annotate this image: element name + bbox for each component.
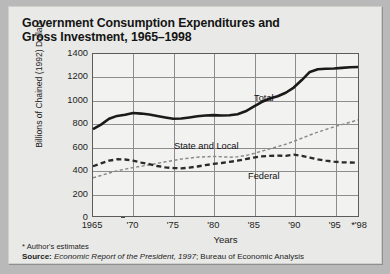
- x-tick-label: '75: [167, 220, 179, 230]
- y-tick-mark: [121, 217, 125, 218]
- chart-panel: Government Consumption Expenditures and …: [8, 6, 382, 264]
- x-tick-label: '80: [207, 220, 219, 230]
- chart-title-line-1: Government Consumption Expenditures and: [22, 16, 280, 30]
- series-lines: [93, 54, 358, 216]
- source-rest: ; Bureau of Economic Analysis: [196, 252, 304, 261]
- y-tick-label: 800: [46, 118, 88, 128]
- source-label: Source:: [22, 252, 52, 261]
- y-tick-label: 1200: [46, 71, 88, 81]
- chart-title: Government Consumption Expenditures and …: [22, 16, 362, 44]
- source-title: Economic Report of the President, 1997: [52, 252, 196, 261]
- x-tick-label: '70: [126, 220, 138, 230]
- y-tick-label: 200: [46, 189, 88, 199]
- y-tick-label: 1000: [46, 95, 88, 105]
- series-label-total: Total: [254, 93, 274, 103]
- x-tick-label: 1965: [82, 220, 103, 230]
- x-tick-label: '95: [329, 220, 341, 230]
- x-axis-title: Years: [92, 234, 359, 245]
- x-tick-label: '85: [248, 220, 260, 230]
- x-tick-label: '90: [288, 220, 300, 230]
- series-line-total: [93, 67, 358, 129]
- y-axis-ticks: 0200400600800100012001400: [42, 53, 88, 217]
- series-label-federal: Federal: [248, 171, 280, 181]
- chart-title-line-2: Gross Investment, 1965–1998: [22, 30, 362, 44]
- x-tick-label: *'98: [351, 220, 367, 230]
- source-line: Source: Economic Report of the President…: [22, 252, 304, 261]
- plot-area: Total State and Local Federal: [92, 53, 359, 217]
- y-tick-label: 600: [46, 142, 88, 152]
- y-tick-label: 1400: [46, 48, 88, 58]
- chart-figure: Government Consumption Expenditures and …: [0, 0, 390, 274]
- y-tick-label: 400: [46, 165, 88, 175]
- series-label-state-and-local: State and Local: [174, 141, 239, 151]
- footnote-author-estimates: * Author's estimates: [22, 242, 89, 251]
- x-axis-ticks: 1965'70'75'80'85'90'95*'98: [92, 220, 359, 233]
